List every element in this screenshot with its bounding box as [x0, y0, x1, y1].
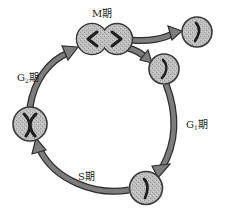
s-phase-label: S期 — [78, 172, 95, 182]
s-phase-text: S期 — [78, 171, 95, 182]
daughter-cell-exit — [182, 17, 212, 47]
g1-cell — [149, 54, 179, 84]
g1-letter: G — [186, 119, 194, 130]
g2-phase-label: G2期 — [17, 73, 39, 84]
m-phase-text: M期 — [92, 8, 112, 19]
cell-cycle-diagram — [0, 0, 226, 221]
g1-arrow — [152, 84, 174, 178]
m-to-g1-arrow — [128, 48, 152, 63]
g1-phase-label: G1期 — [186, 120, 208, 131]
g1-suffix: 期 — [198, 119, 208, 130]
s-arrow — [32, 138, 129, 191]
g2-cell — [13, 107, 47, 141]
s-phase-cell — [130, 172, 163, 205]
g2-letter: G — [17, 72, 25, 83]
g2-suffix: 期 — [29, 72, 39, 83]
m-to-daughter-arrow — [131, 26, 182, 41]
m-phase-cell — [77, 24, 133, 55]
m-phase-label: M期 — [92, 9, 112, 19]
